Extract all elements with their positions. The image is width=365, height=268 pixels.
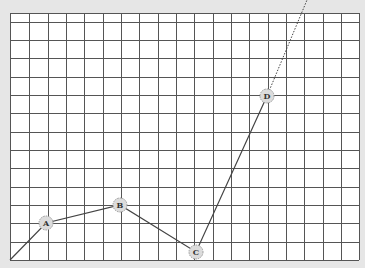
line-diagram: ABCD [0, 0, 365, 268]
point-a: A [39, 216, 53, 230]
point-label: C [193, 247, 199, 257]
point-c: C [189, 245, 203, 259]
point-label: D [264, 91, 271, 101]
grid-background [10, 13, 359, 260]
point-d: D [260, 89, 274, 103]
point-label: A [42, 218, 50, 228]
point-label: B [117, 200, 124, 210]
point-b: B [113, 198, 127, 212]
